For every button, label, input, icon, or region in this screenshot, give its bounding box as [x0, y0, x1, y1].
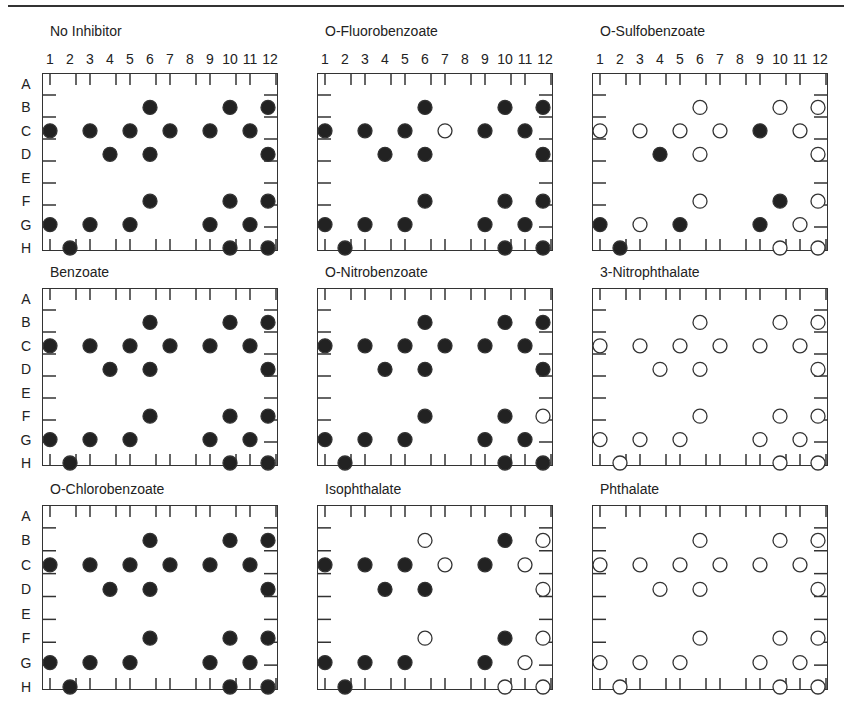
open-well	[693, 533, 707, 547]
open-well	[673, 656, 687, 670]
open-well	[773, 680, 787, 694]
open-well	[811, 631, 825, 645]
open-well	[633, 656, 647, 670]
open-well	[593, 558, 607, 572]
open-well	[773, 533, 787, 547]
open-well	[753, 558, 767, 572]
open-well	[793, 656, 807, 670]
open-well	[613, 680, 627, 694]
open-well	[593, 656, 607, 670]
open-well	[753, 656, 767, 670]
well-dots	[0, 0, 851, 702]
open-well	[693, 582, 707, 596]
open-well	[773, 631, 787, 645]
open-well	[811, 582, 825, 596]
open-well	[693, 631, 707, 645]
open-well	[633, 558, 647, 572]
open-well	[811, 533, 825, 547]
open-well	[653, 582, 667, 596]
open-well	[713, 558, 727, 572]
open-well	[793, 558, 807, 572]
open-well	[673, 558, 687, 572]
open-well	[811, 680, 825, 694]
